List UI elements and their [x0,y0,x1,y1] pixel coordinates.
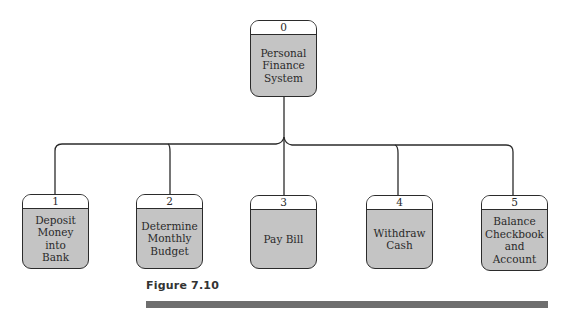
process-box-4: 4 Withdraw Cash [366,195,433,269]
process-box-3: 3 Pay Bill [250,195,317,269]
process-label: Determine Monthly Budget [137,209,202,268]
process-label: Deposit Money into Bank [23,209,88,268]
process-number: 2 [137,195,202,209]
process-number: 3 [251,196,316,210]
process-label: Pay Bill [251,210,316,268]
process-number: 4 [367,196,432,210]
process-number: 1 [23,195,88,209]
figure-caption: Figure 7.10 [146,279,219,292]
process-box-5: 5 Balance Checkbook and Account [481,195,548,271]
root-process-box: 0 Personal Finance System [250,20,317,97]
process-label: Balance Checkbook and Account [482,210,547,270]
process-number: 5 [482,196,547,210]
figure-rule [146,301,548,308]
process-box-2: 2 Determine Monthly Budget [136,194,203,269]
process-number: 0 [251,21,316,35]
process-label: Withdraw Cash [367,210,432,268]
process-box-1: 1 Deposit Money into Bank [22,194,89,269]
process-label: Personal Finance System [251,35,316,96]
